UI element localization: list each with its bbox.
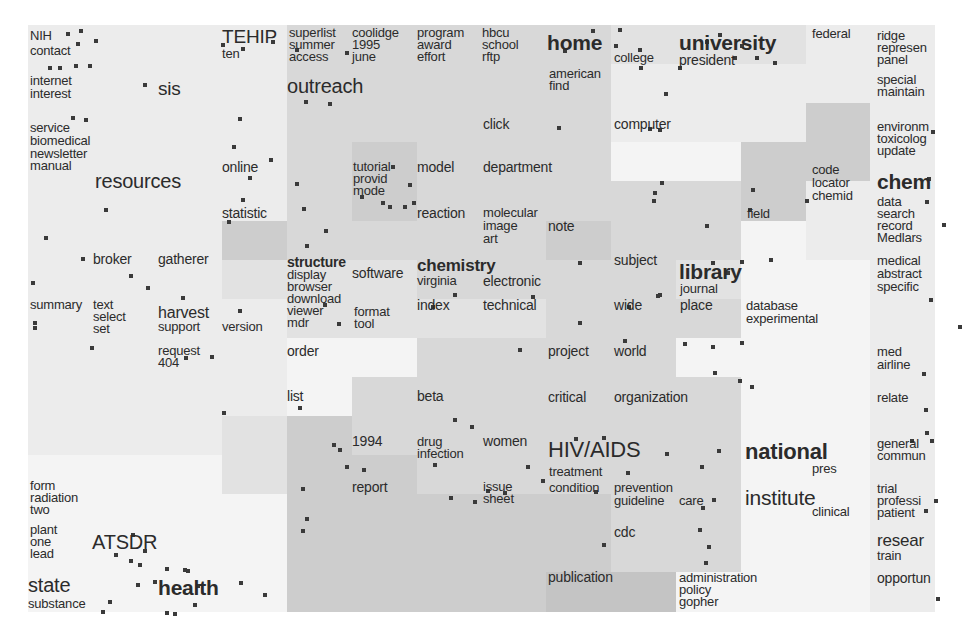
document-marker-icon[interactable] [660,181,664,185]
map-label[interactable]: federal [812,27,850,40]
map-cell[interactable] [741,221,806,261]
map-label[interactable]: guideline [614,494,664,507]
map-cell[interactable] [741,260,806,300]
document-marker-icon[interactable] [473,500,477,504]
map-cell[interactable] [93,455,158,495]
document-marker-icon[interactable] [146,286,150,290]
map-label[interactable]: clinical [812,505,849,518]
map-label[interactable]: click [483,117,509,131]
map-label[interactable]: HIV/AIDS [548,439,641,461]
map-cell[interactable] [482,572,547,612]
map-cell[interactable] [806,260,871,300]
document-marker-icon[interactable] [707,545,711,549]
map-label[interactable]: health [158,577,219,598]
map-cell[interactable] [352,533,417,573]
document-marker-icon[interactable] [557,126,561,130]
document-marker-icon[interactable] [713,371,717,375]
document-marker-icon[interactable] [337,322,341,326]
map-cell[interactable] [28,260,93,300]
document-marker-icon[interactable] [769,258,773,262]
document-marker-icon[interactable] [449,496,453,500]
document-marker-icon[interactable] [930,439,934,443]
map-label[interactable]: library [679,261,742,282]
map-label[interactable]: reaction [417,206,465,220]
document-marker-icon[interactable] [173,612,177,616]
document-marker-icon[interactable] [181,296,185,300]
document-marker-icon[interactable] [652,199,656,203]
document-marker-icon[interactable] [301,487,305,491]
map-label[interactable]: college [614,51,654,64]
document-marker-icon[interactable] [388,205,392,209]
document-marker-icon[interactable] [71,116,75,120]
map-label[interactable]: ATSDR [92,532,157,552]
map-cell[interactable] [741,377,806,417]
document-marker-icon[interactable] [238,117,242,121]
map-cell[interactable] [676,181,741,221]
map-cell[interactable] [93,103,158,143]
document-marker-icon[interactable] [639,66,643,70]
document-marker-icon[interactable] [44,236,48,240]
map-label[interactable]: specific [877,280,919,293]
document-marker-icon[interactable] [936,597,940,601]
document-marker-icon[interactable] [408,183,412,187]
map-cell[interactable] [741,142,806,182]
document-marker-icon[interactable] [924,408,928,412]
document-marker-icon[interactable] [518,348,522,352]
map-cell[interactable] [546,299,611,339]
map-cell[interactable] [417,455,482,495]
document-marker-icon[interactable] [711,345,715,349]
document-marker-icon[interactable] [751,188,755,192]
map-label[interactable]: set [93,322,110,335]
document-marker-icon[interactable] [403,205,407,209]
map-label[interactable]: relate [877,391,908,404]
map-label[interactable]: software [352,266,403,280]
document-marker-icon[interactable] [48,66,52,70]
document-marker-icon[interactable] [345,465,349,469]
document-marker-icon[interactable] [239,581,243,585]
map-label[interactable]: interest [30,87,71,100]
map-label[interactable]: care [679,494,704,507]
map-cell[interactable] [806,103,871,143]
map-label[interactable]: find [549,79,569,92]
document-marker-icon[interactable] [248,176,252,180]
map-cell[interactable] [93,25,158,65]
map-cell[interactable] [417,64,482,104]
map-cell[interactable] [28,377,93,417]
document-marker-icon[interactable] [81,257,85,261]
map-cell[interactable] [741,64,806,104]
document-marker-icon[interactable] [381,201,385,205]
document-marker-icon[interactable] [755,56,759,60]
map-cell[interactable] [546,103,611,143]
map-cell[interactable] [741,103,806,143]
map-cell[interactable] [676,416,741,456]
map-cell[interactable] [676,142,741,182]
map-cell[interactable] [546,181,611,221]
map-label[interactable]: wide [614,298,642,312]
document-marker-icon[interactable] [263,593,267,597]
map-label[interactable]: commun [877,449,926,462]
document-marker-icon[interactable] [658,293,662,297]
map-cell[interactable] [352,103,417,143]
map-label[interactable]: lead [30,547,54,560]
map-cell[interactable] [806,533,871,573]
map-label[interactable]: ten [222,47,239,60]
map-cell[interactable] [28,338,93,378]
document-marker-icon[interactable] [704,561,708,565]
document-marker-icon[interactable] [664,92,668,96]
map-label[interactable]: project [548,344,589,358]
document-marker-icon[interactable] [712,498,716,502]
map-cell[interactable] [28,221,93,261]
map-cell[interactable] [482,338,547,378]
map-cell[interactable] [158,455,223,495]
document-marker-icon[interactable] [31,281,35,285]
map-label[interactable]: NIH [30,29,52,42]
map-label[interactable]: cdc [614,525,635,539]
map-cell[interactable] [741,338,806,378]
map-cell[interactable] [287,142,352,182]
map-label[interactable]: 404 [158,356,179,369]
map-label[interactable]: technical [483,298,536,312]
map-cell[interactable] [158,377,223,417]
som-map[interactable]: NIHcontactinternetinterestsisservicebiom… [28,25,935,612]
document-marker-icon[interactable] [153,580,157,584]
document-marker-icon[interactable] [90,346,94,350]
